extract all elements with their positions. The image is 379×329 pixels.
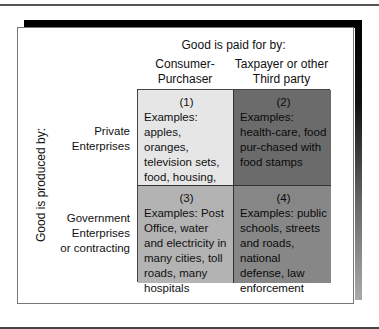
cell-text: Examples: public schools, streets and ro… xyxy=(240,207,327,294)
cell-number: (3) xyxy=(144,191,229,206)
cell-text: Examples: Post Office, water and electri… xyxy=(144,207,226,294)
row-header-line: Enterprises xyxy=(60,226,130,241)
top-rule xyxy=(0,4,379,6)
panel-shadow-right xyxy=(355,20,362,300)
row-axis-title: Good is produced by: xyxy=(34,128,48,242)
cell-number: (1) xyxy=(144,95,229,110)
cell-number: (2) xyxy=(240,95,327,110)
row-header-line: Enterprises xyxy=(72,139,130,154)
column-header-line: Third party xyxy=(233,72,330,87)
column-axis-title: Good is paid for by: xyxy=(137,38,330,52)
cell-government-consumer: (3) Examples: Post Office, water and ele… xyxy=(138,186,234,283)
row-header-line: Private xyxy=(72,124,130,139)
cell-private-consumer: (1) Examples: apples, oranges, televisio… xyxy=(138,90,234,186)
cell-text: Examples: health-care, food pur-chased w… xyxy=(240,111,326,168)
column-header-line: Taxpayer or other xyxy=(233,57,330,72)
row-header-line: Government xyxy=(60,211,130,226)
column-header-consumer-purchaser: Consumer- Purchaser xyxy=(137,57,233,87)
column-header-third-party: Taxpayer or other Third party xyxy=(233,57,330,87)
cell-private-third-party: (2) Examples: health-care, food pur-chas… xyxy=(234,90,331,186)
cell-government-third-party: (4) Examples: public schools, streets an… xyxy=(234,186,331,283)
row-header-government-enterprises: Government Enterprises or contracting xyxy=(60,211,130,256)
cell-number: (4) xyxy=(240,191,327,206)
classification-grid: (1) Examples: apples, oranges, televisio… xyxy=(137,89,330,282)
row-header-line: or contracting xyxy=(60,241,130,256)
column-header-line: Purchaser xyxy=(137,72,233,87)
row-header-private-enterprises: Private Enterprises xyxy=(72,124,130,154)
column-header-line: Consumer- xyxy=(137,57,233,72)
